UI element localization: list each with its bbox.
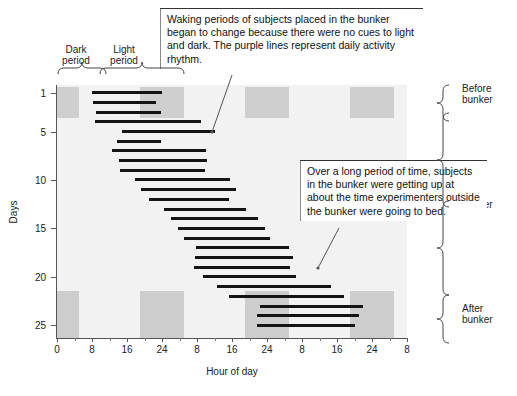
x-axis-tick-minor bbox=[145, 338, 146, 341]
x-axis-tick-major bbox=[162, 338, 163, 342]
x-axis-tick-minor bbox=[285, 338, 286, 341]
x-axis-tick-minor bbox=[110, 338, 111, 341]
actogram-figure: 08162481624816248 1510152025 Hour of day… bbox=[0, 0, 517, 396]
light-period-label: Light period bbox=[110, 44, 138, 66]
dark-period-band bbox=[350, 87, 394, 118]
x-axis-tick-label: 16 bbox=[226, 344, 237, 355]
activity-bar bbox=[229, 295, 345, 298]
y-axis-tick-label: 15 bbox=[35, 223, 46, 234]
before-bunker-brace bbox=[437, 85, 449, 121]
x-axis-tick-label: 24 bbox=[156, 344, 167, 355]
x-axis-tick-label: 16 bbox=[121, 344, 132, 355]
activity-bar bbox=[119, 159, 207, 162]
activity-bar bbox=[257, 314, 359, 317]
activity-bar bbox=[112, 149, 206, 152]
y-axis-tick bbox=[51, 93, 57, 94]
activity-bar bbox=[171, 217, 259, 220]
x-axis-tick-major bbox=[92, 338, 93, 342]
y-axis-tick bbox=[51, 277, 57, 278]
x-axis-tick-major bbox=[337, 338, 338, 342]
x-axis-title: Hour of day bbox=[206, 366, 258, 377]
activity-bar bbox=[93, 101, 156, 104]
dark-period-band bbox=[57, 291, 79, 338]
x-axis-tick-major bbox=[57, 338, 58, 342]
x-axis-tick-major bbox=[127, 338, 128, 342]
y-axis-tick bbox=[51, 325, 57, 326]
y-axis-tick-label: 10 bbox=[35, 174, 46, 185]
callout-long-period: Over a long period of time, subjects in … bbox=[300, 160, 487, 221]
x-axis-tick-major bbox=[372, 338, 373, 342]
x-axis-tick-label: 8 bbox=[299, 344, 305, 355]
activity-bar bbox=[149, 198, 230, 201]
activity-bar bbox=[260, 305, 363, 308]
y-axis-tick-label: 25 bbox=[35, 320, 46, 331]
dark-period-band bbox=[245, 87, 289, 118]
activity-bar bbox=[141, 188, 236, 191]
after-bunker-brace bbox=[437, 295, 449, 343]
activity-bar bbox=[122, 130, 215, 133]
callout-left-rule bbox=[160, 9, 161, 69]
callout-text: Over a long period of time, subjects in … bbox=[307, 165, 480, 217]
activity-bar bbox=[194, 266, 289, 269]
activity-bar bbox=[195, 256, 293, 259]
x-axis-tick-major bbox=[302, 338, 303, 342]
x-axis-tick-label: 8 bbox=[404, 344, 410, 355]
y-axis-tick-label: 1 bbox=[40, 87, 46, 98]
x-axis-tick-major bbox=[267, 338, 268, 342]
dark-period-band bbox=[57, 87, 79, 118]
x-axis-tick-minor bbox=[215, 338, 216, 341]
before-bunker-label: Before bunker bbox=[462, 83, 493, 105]
y-axis-tick bbox=[51, 180, 57, 181]
x-axis-tick-minor bbox=[75, 338, 76, 341]
activity-bar bbox=[96, 111, 160, 114]
activity-bar bbox=[196, 246, 289, 249]
x-axis-tick-label: 0 bbox=[54, 344, 60, 355]
y-axis-tick-label: 20 bbox=[35, 271, 46, 282]
x-axis-tick-label: 16 bbox=[331, 344, 342, 355]
activity-bar bbox=[203, 275, 296, 278]
x-axis-tick-minor bbox=[390, 338, 391, 341]
activity-bar bbox=[184, 237, 270, 240]
x-axis-tick-label: 8 bbox=[89, 344, 95, 355]
activity-bar bbox=[95, 120, 201, 123]
x-axis-tick-minor bbox=[180, 338, 181, 341]
after-bunker-label: After bunker bbox=[462, 303, 493, 325]
x-axis-tick-label: 24 bbox=[261, 344, 272, 355]
activity-bar bbox=[92, 91, 162, 94]
activity-bar bbox=[120, 169, 205, 172]
x-axis-tick-major bbox=[197, 338, 198, 342]
y-axis-tick-label: 5 bbox=[40, 126, 46, 137]
dark-period-label: Dark period bbox=[62, 44, 90, 66]
callout-left-rule bbox=[300, 161, 301, 221]
x-axis-tick-minor bbox=[355, 338, 356, 341]
activity-bar bbox=[257, 324, 355, 327]
dark-period-band bbox=[140, 291, 184, 338]
x-axis-tick-major bbox=[407, 338, 408, 342]
x-axis-tick-major bbox=[232, 338, 233, 342]
y-axis-title: Days bbox=[8, 201, 19, 224]
y-axis-tick bbox=[51, 228, 57, 229]
activity-bar bbox=[178, 227, 266, 230]
x-axis-tick-label: 8 bbox=[194, 344, 200, 355]
x-axis-tick-label: 24 bbox=[366, 344, 377, 355]
activity-bar bbox=[117, 140, 162, 143]
callout-text: Waking periods of subjects placed in the… bbox=[167, 13, 414, 65]
y-axis-tick bbox=[51, 132, 57, 133]
x-axis-tick-minor bbox=[320, 338, 321, 341]
x-axis-tick-minor bbox=[250, 338, 251, 341]
callout-waking-periods: Waking periods of subjects placed in the… bbox=[160, 8, 423, 69]
activity-bar bbox=[135, 178, 230, 181]
activity-bar bbox=[164, 208, 246, 211]
activity-bar bbox=[217, 285, 331, 288]
